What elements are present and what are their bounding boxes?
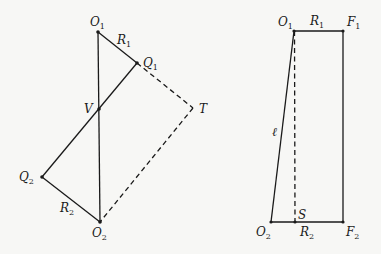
label-r1-right: R1 (309, 14, 324, 30)
diagram-canvas: O1 R1 Q1 V T Q2 R2 O2 O1 R1 F1 ℓ S O2 R2… (0, 0, 381, 254)
label-o2: O2 (92, 226, 107, 242)
label-o1: O1 (90, 15, 105, 31)
point-f1 (341, 29, 344, 32)
label-s: S (298, 208, 306, 222)
segment-t-o2 (100, 108, 193, 222)
label-ell: ℓ (272, 125, 277, 139)
point-o2 (98, 220, 102, 224)
label-q2: Q2 (19, 170, 34, 186)
point-f2 (341, 220, 344, 223)
segment-o1-o2 (98, 32, 100, 222)
point-s (293, 220, 296, 223)
label-f2: F2 (345, 225, 359, 241)
right-figure: O1 R1 F1 ℓ S O2 R2 F2 (256, 14, 360, 241)
point-v (97, 107, 101, 111)
point-q1 (135, 61, 139, 65)
segment-q1-q2 (42, 63, 137, 177)
point-o2-right (269, 220, 272, 223)
label-o2-right: O2 (256, 225, 271, 241)
left-figure: O1 R1 Q1 V T Q2 R2 O2 (19, 15, 208, 242)
label-q1: Q1 (143, 56, 158, 72)
label-r2-right: R2 (299, 225, 314, 241)
label-f1: F1 (346, 15, 360, 31)
label-t: T (199, 102, 208, 116)
label-r1: R1 (116, 33, 131, 49)
label-r2: R2 (59, 201, 74, 217)
label-o1-right: O1 (278, 15, 293, 31)
point-q2 (40, 175, 44, 179)
label-v: V (84, 102, 94, 116)
segment-o1-s (295, 31, 296, 222)
